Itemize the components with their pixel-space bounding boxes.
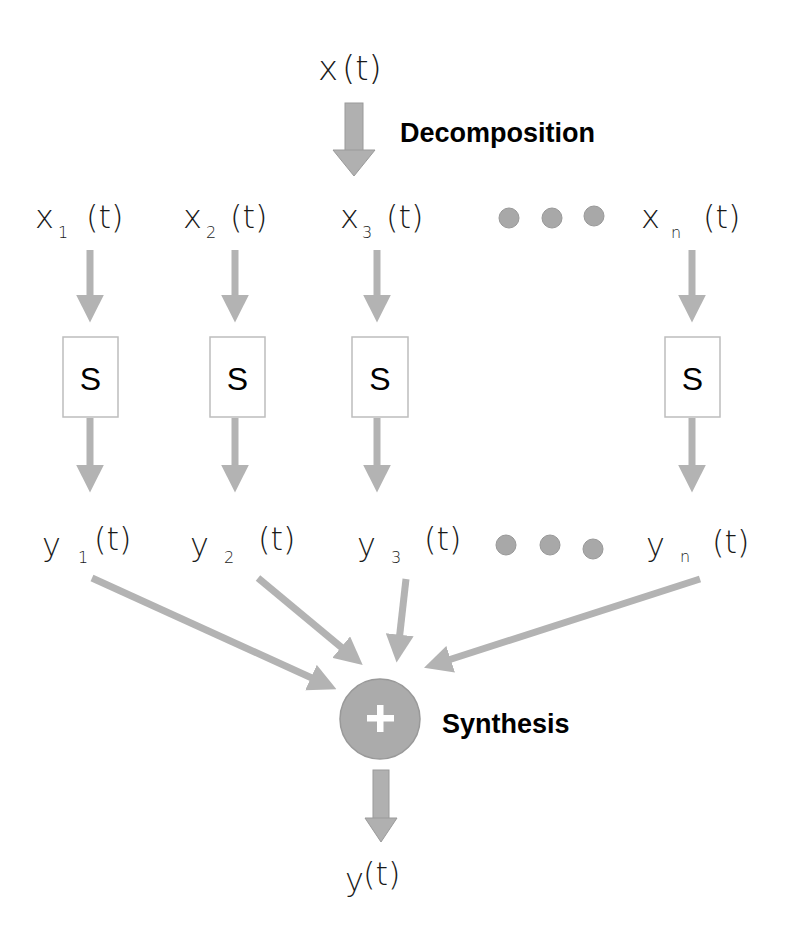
svg-text:S: S (369, 361, 390, 397)
svg-text:1: 1 (78, 548, 88, 567)
synthesis-label: Synthesis (442, 709, 570, 739)
svg-text:(t): (t) (94, 520, 132, 558)
svg-text:(t): (t) (712, 523, 750, 561)
branch-input-label-3: x 3 (t) (340, 198, 424, 242)
input-signal-label: x (t) (318, 48, 382, 88)
system-block-n: S (665, 337, 720, 417)
branch-input-label-2: x 2 (t) (183, 198, 268, 242)
branch-output-label-3: y 3 (t) (357, 520, 462, 567)
svg-text:y: y (190, 526, 209, 564)
svg-text:n: n (680, 547, 690, 566)
svg-text:3: 3 (391, 548, 401, 567)
output-signal-label: y (t) (345, 855, 401, 899)
svg-text:(t): (t) (342, 48, 382, 88)
svg-text:2: 2 (206, 223, 216, 242)
svg-text:(t): (t) (86, 198, 124, 236)
svg-text:(t): (t) (386, 198, 424, 236)
svg-text:S: S (80, 361, 101, 397)
ellipsis-dots-top (499, 206, 604, 228)
branch-output-label-1: y 1 (t) (42, 520, 132, 567)
svg-text:x: x (183, 198, 202, 236)
svg-text:x: x (641, 198, 660, 236)
svg-text:y: y (345, 861, 364, 899)
system-block-2: S (210, 337, 265, 417)
svg-text:y: y (357, 526, 376, 564)
svg-text:S: S (227, 361, 248, 397)
signal-decomposition-diagram: x (t) Decomposition x 1 (t) x 2 (t) x 3 … (0, 0, 790, 943)
branch-input-label-n: x n (t) (641, 198, 741, 242)
svg-text:2: 2 (224, 548, 234, 567)
svg-text:x: x (35, 198, 54, 236)
branch-input-label-1: x 1 (t) (35, 198, 124, 242)
svg-text:y: y (646, 526, 665, 564)
svg-text:S: S (682, 361, 703, 397)
svg-text:1: 1 (58, 223, 68, 242)
svg-text:(t): (t) (258, 520, 296, 558)
summing-junction (340, 679, 420, 759)
input-arrows (90, 250, 692, 310)
system-block-1: S (63, 337, 118, 417)
svg-text:3: 3 (362, 223, 372, 242)
diagram-svg: x (t) Decomposition x 1 (t) x 2 (t) x 3 … (0, 0, 790, 943)
svg-text:x: x (340, 198, 359, 236)
output-arrows (90, 418, 692, 480)
svg-text:(t): (t) (424, 520, 462, 558)
svg-text:y: y (42, 526, 61, 564)
decomposition-arrow (333, 103, 375, 176)
branch-output-label-n: y n (t) (646, 523, 750, 566)
decomposition-label: Decomposition (400, 118, 595, 148)
svg-text:(t): (t) (703, 198, 741, 236)
ellipsis-dots-bottom (496, 535, 603, 559)
output-arrow (365, 770, 397, 842)
branch-output-label-2: y 2 (t) (190, 520, 296, 567)
system-block-3: S (352, 337, 408, 417)
svg-text:(t): (t) (363, 855, 401, 893)
svg-text:(t): (t) (230, 198, 268, 236)
svg-text:x: x (318, 48, 338, 88)
synthesis-arrows (92, 578, 700, 684)
svg-text:n: n (671, 223, 681, 242)
